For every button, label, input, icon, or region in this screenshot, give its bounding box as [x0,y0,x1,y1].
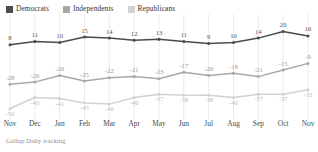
data-point-label: -37 [279,95,288,102]
data-point[interactable] [133,75,136,78]
x-tick-label: Feb [79,119,90,128]
data-point[interactable] [33,40,36,43]
chart-plot-area: -50-40-41-45-46-40-37-38-38-40-37-37-33-… [0,14,318,120]
data-point[interactable] [9,83,12,86]
data-point-label: 13 [156,29,163,36]
data-point-label: -46 [105,105,114,112]
chart-svg: -50-40-41-45-46-40-37-38-38-40-37-37-33-… [0,14,318,120]
data-point-label: 14 [255,28,262,35]
data-point-label: -15 [279,60,288,67]
data-point[interactable] [58,41,61,44]
data-point-label: 16 [305,25,312,32]
data-point[interactable] [158,38,161,41]
data-point[interactable] [133,39,136,42]
data-point[interactable] [307,62,310,65]
data-point-label: -26 [30,72,39,79]
x-tick-label: Aug [227,119,240,128]
data-point-label: -45 [80,104,89,111]
x-tick-label: Jun [179,119,189,128]
chart-x-axis: NovDecJanFebMarAprMayJunJulAugSepOctNov [0,119,318,133]
data-point[interactable] [108,76,111,79]
data-point-label: 9 [207,33,211,40]
data-point-label: -37 [254,95,263,102]
x-tick-label: Jul [204,119,213,128]
x-tick-label: Nov [302,119,315,128]
data-point-label: -33 [304,91,313,98]
legend-item-independents[interactable]: Independents [63,5,114,13]
data-point-label: -20 [204,65,213,72]
data-point-label: -17 [179,62,188,69]
legend-swatch-republicans [128,6,135,13]
data-point[interactable] [182,40,185,43]
data-point-label: -40 [30,99,39,106]
data-point[interactable] [307,34,310,37]
data-point-label: -38 [204,96,213,103]
data-point-label: 11 [32,31,38,38]
x-tick-label: Sep [253,119,264,128]
data-point[interactable] [158,77,161,80]
data-point[interactable] [282,30,285,33]
legend-item-republicans[interactable]: Republicans [128,5,176,13]
data-point-label: -50 [6,110,15,117]
data-point-label: -41 [55,100,64,107]
data-point-label: 20 [280,21,287,28]
data-point-label: -23 [155,68,164,75]
legend-label-democrats: Democrats [16,5,49,13]
data-point[interactable] [58,74,61,77]
data-point-label: -28 [6,74,15,81]
legend-item-democrats[interactable]: Democrats [6,5,49,13]
data-point-label: 11 [181,31,187,38]
chart-container: Democrats Independents Republicans -50-4… [0,0,318,152]
data-point[interactable] [83,36,86,39]
data-point-label: -18 [229,63,238,70]
data-point-label: 10 [230,32,237,39]
data-point[interactable] [207,42,210,45]
data-point-label: -38 [179,96,188,103]
data-point[interactable] [282,69,285,72]
data-point[interactable] [33,81,36,84]
x-tick-label: Jan [55,119,65,128]
data-point-label: -21 [254,66,263,73]
data-point-label: 10 [56,32,63,39]
chart-source-note: Gallup Daily tracking [6,136,66,145]
data-point[interactable] [257,75,260,78]
data-point-label: -20 [55,65,64,72]
data-point-label: -37 [155,95,164,102]
x-tick-label: Oct [278,119,289,128]
data-point-label: -25 [80,71,89,78]
data-point[interactable] [257,37,260,40]
x-tick-label: May [152,119,166,128]
data-point-label: -22 [105,67,114,74]
legend-swatch-democrats [6,6,13,13]
data-point[interactable] [83,80,86,83]
x-tick-label: Nov [4,119,17,128]
data-point[interactable] [108,37,111,40]
data-point-label: -40 [229,99,238,106]
data-point-label: -21 [130,66,139,73]
data-point[interactable] [232,72,235,75]
data-point[interactable] [182,71,185,74]
data-point[interactable] [207,74,210,77]
legend-label-republicans: Republicans [138,5,176,13]
data-point-label: 15 [81,27,88,34]
data-point-label: -40 [130,99,139,106]
data-point-label: -9 [305,53,311,60]
data-point[interactable] [9,43,12,46]
x-tick-label: Mar [103,119,115,128]
data-point[interactable] [232,41,235,44]
x-tick-label: Dec [29,119,41,128]
x-tick-label: Apr [128,119,140,128]
data-point-label: 12 [131,30,138,37]
legend-label-independents: Independents [73,5,114,13]
data-point-label: 14 [106,28,113,35]
legend-swatch-independents [63,6,70,13]
data-point-label: 8 [8,34,12,41]
